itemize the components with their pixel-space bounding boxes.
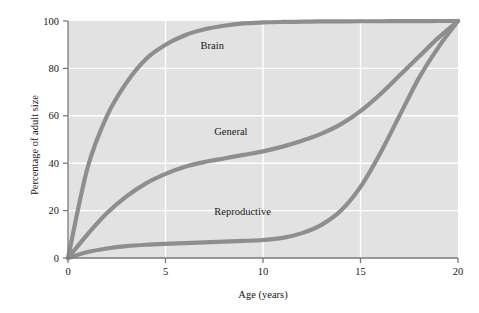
x-axis-title: Age (years) bbox=[238, 289, 288, 301]
series-label-general: General bbox=[214, 126, 247, 137]
x-axis-ticks: 05101520 bbox=[65, 258, 463, 277]
y-tick-label: 40 bbox=[49, 158, 60, 169]
x-tick-label: 20 bbox=[453, 266, 464, 277]
y-axis-ticks: 020406080100 bbox=[43, 16, 68, 264]
y-tick-label: 0 bbox=[54, 253, 59, 264]
y-tick-label: 60 bbox=[49, 110, 60, 121]
x-tick-label: 5 bbox=[163, 266, 168, 277]
chart-canvas: 020406080100 05101520 BrainGeneralReprod… bbox=[0, 0, 479, 313]
y-axis-title: Percentage of adult size bbox=[29, 95, 40, 195]
x-tick-label: 0 bbox=[65, 266, 70, 277]
series-label-reproductive: Reproductive bbox=[214, 206, 271, 217]
series-label-brain: Brain bbox=[201, 40, 225, 51]
x-tick-label: 10 bbox=[258, 266, 269, 277]
y-tick-label: 100 bbox=[43, 16, 59, 27]
growth-curves-chart: 020406080100 05101520 BrainGeneralReprod… bbox=[0, 0, 479, 313]
y-tick-label: 20 bbox=[49, 205, 60, 216]
y-tick-label: 80 bbox=[49, 63, 60, 74]
x-tick-label: 15 bbox=[355, 266, 366, 277]
